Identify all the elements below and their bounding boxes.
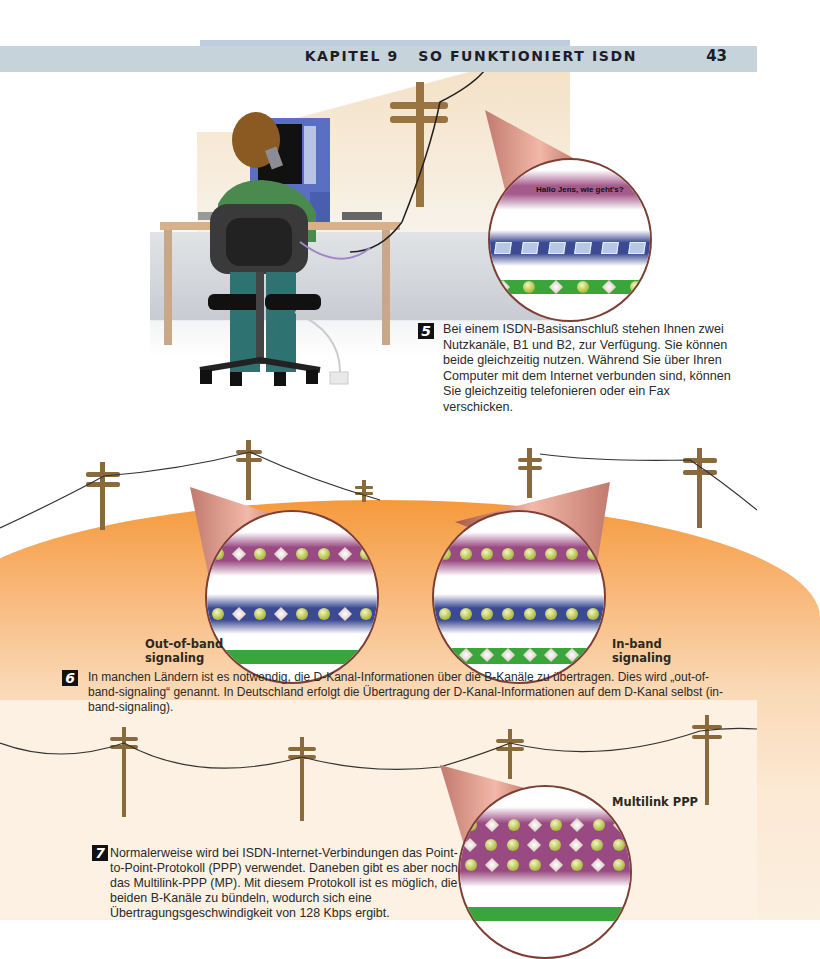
step-badge-6: 6 xyxy=(62,670,78,686)
multilink-ppp-label: Multilink PPP xyxy=(612,795,698,809)
in-band-label-line1: In-band xyxy=(612,637,671,651)
out-of-band-label-line2: signaling xyxy=(145,651,223,665)
step-badge-5: 5 xyxy=(418,323,434,339)
step-badge-7: 7 xyxy=(92,845,108,861)
section-5-text: Bei einem ISDN-Basisanschluß stehen Ihne… xyxy=(443,322,743,415)
lens-b-channels: Hallo Jens, wie geht's? xyxy=(488,158,652,322)
page-number: 43 xyxy=(706,47,727,65)
lens-caption: Hallo Jens, wie geht's? xyxy=(536,185,624,194)
out-of-band-label-line1: Out-of-band xyxy=(145,637,223,651)
in-band-label: In-band signaling xyxy=(612,637,671,665)
chapter-title: KAPITEL 9 SO FUNKTIONIERT ISDN xyxy=(305,48,637,64)
in-band-label-line2: signaling xyxy=(612,651,671,665)
section-7-text: Normalerweise wird bei ISDN-Internet-Ver… xyxy=(110,846,465,921)
lens-multilink xyxy=(458,785,632,959)
section-6-text: In manchen Ländern ist es notwendig, die… xyxy=(88,670,728,715)
out-of-band-label: Out-of-band signaling xyxy=(145,637,223,665)
lens-in-band xyxy=(432,510,606,684)
lens-out-of-band xyxy=(205,510,379,684)
telephone-lines-6 xyxy=(0,440,757,530)
